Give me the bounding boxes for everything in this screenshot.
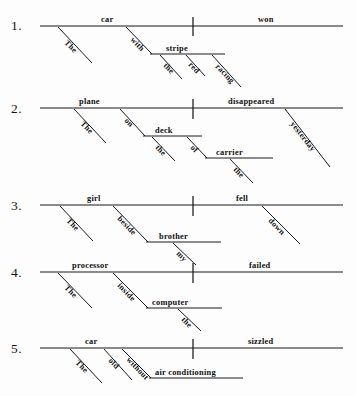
- preposition-1: with: [129, 35, 147, 53]
- preposition1-2: on: [123, 116, 136, 129]
- prep-object-3: brother: [159, 232, 188, 241]
- subject-article-5: The: [74, 358, 90, 375]
- prep-object-mod1-1: red: [187, 60, 202, 75]
- prep-object1-2: deck: [155, 126, 173, 135]
- subject-article-1: The: [63, 38, 79, 55]
- diagram-number-1: 1.: [11, 18, 22, 33]
- adverb-3: down: [267, 216, 287, 237]
- diagram-sheet: 1. car won The with stripe the red racin…: [0, 0, 357, 396]
- prep-object-1: stripe: [166, 44, 188, 53]
- preposition-5: without: [125, 355, 151, 382]
- diagram-2: 2. plane disappeared The on deck the of …: [11, 97, 343, 183]
- diagram-number-2: 2.: [11, 101, 22, 116]
- diagram-number-4: 4.: [11, 265, 22, 280]
- prep-object2-article-2: the: [232, 165, 247, 180]
- preposition2-2: of: [189, 143, 201, 155]
- verb-2: disappeared: [228, 97, 274, 106]
- subject-4: processor: [72, 261, 109, 270]
- diagram-3: 3. girl fell The beside brother my down: [11, 194, 343, 265]
- preposition-3: beside: [116, 214, 139, 237]
- verb-4: failed: [249, 261, 271, 270]
- subject-article-3: The: [65, 216, 81, 233]
- prep-object-mod2-1: racing: [214, 62, 237, 85]
- diagram-1: 1. car won The with stripe the red racin…: [11, 15, 343, 87]
- prep-object2-2: carrier: [216, 148, 243, 157]
- subject-mod-5: old: [107, 356, 122, 371]
- prep-object-article-4: the: [180, 315, 195, 330]
- prep-object-mod-3: my: [175, 249, 189, 263]
- subject-3: girl: [87, 194, 101, 203]
- preposition-4: inside: [116, 281, 138, 303]
- prep-object-4: computer: [152, 298, 188, 307]
- subject-article-4: The: [63, 283, 79, 300]
- diagram-4: 4. processor failed The inside computer …: [11, 261, 343, 331]
- subject-5: car: [85, 337, 97, 346]
- diagram-number-3: 3.: [11, 198, 22, 213]
- verb-5: sizzled: [248, 337, 274, 346]
- diagram-number-5: 5.: [11, 341, 22, 356]
- subject-article-2: The: [79, 119, 95, 136]
- verb-1: won: [258, 15, 274, 24]
- prep-object-5: air conditioning: [155, 368, 216, 377]
- verb-3: fell: [236, 194, 249, 203]
- adverb-2: yesterday: [288, 120, 317, 154]
- sentence-diagram-canvas: 1. car won The with stripe the red racin…: [0, 0, 357, 396]
- subject-2: plane: [79, 97, 100, 106]
- diagram-5: 5. car sizzled The old without air condi…: [11, 337, 343, 383]
- subject-1: car: [101, 15, 113, 24]
- prep-object-article-1: the: [162, 61, 177, 76]
- prep-object1-article-2: the: [154, 143, 169, 158]
